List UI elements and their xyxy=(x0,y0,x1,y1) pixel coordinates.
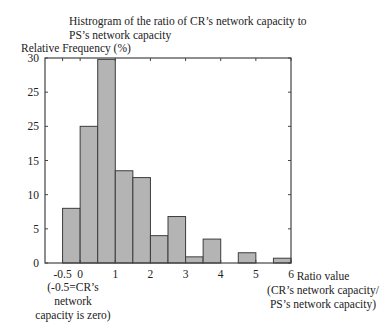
histogram-bar xyxy=(98,59,116,263)
x-axis-label: Ratio value (CR’s network capacity/ PS’s… xyxy=(258,269,383,311)
histogram-bar xyxy=(150,236,168,263)
y-tick-label: 10 xyxy=(28,189,40,201)
y-tick-label: 25 xyxy=(28,86,40,98)
histogram-bar xyxy=(238,253,256,263)
annotation-line-2: capacity is zero) xyxy=(28,308,118,322)
histogram-bar xyxy=(168,217,186,263)
histogram-bar xyxy=(203,239,221,263)
x-tick-label: -0.5 xyxy=(53,268,71,280)
annotation-line-1: (-0.5=CR’s network xyxy=(28,280,118,308)
histogram-bar xyxy=(80,126,98,263)
y-tick-label: 0 xyxy=(33,257,39,269)
x-tick-label: 0 xyxy=(77,268,83,280)
x-tick-label: 4 xyxy=(218,268,224,280)
x-axis-label-line-3: PS’s network capacity) xyxy=(258,297,383,311)
histogram-bars xyxy=(63,59,291,263)
x-tick-label: 2 xyxy=(148,268,154,280)
y-tick-label: 15 xyxy=(28,155,40,167)
y-tick-label: 25 xyxy=(28,120,40,132)
x-tick-label: 3 xyxy=(183,268,189,280)
histogram-bar xyxy=(63,208,81,263)
y-tick-label: 30 xyxy=(28,52,40,64)
histogram-bar xyxy=(186,257,204,263)
x-axis-label-line-1: Ratio value xyxy=(258,269,383,283)
histogram-bar xyxy=(133,178,151,263)
x-axis-label-line-2: (CR’s network capacity/ xyxy=(258,283,383,297)
x-axis-annotation: (-0.5=CR’s network capacity is zero) xyxy=(28,280,118,322)
y-tick-label: 5 xyxy=(33,223,39,235)
x-tick-label: 1 xyxy=(112,268,118,280)
histogram-bar xyxy=(273,258,291,263)
histogram-bar xyxy=(115,171,133,263)
